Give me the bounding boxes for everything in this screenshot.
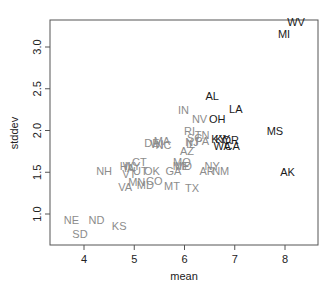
data-point-label: MI bbox=[278, 28, 290, 40]
data-point-label: NV bbox=[192, 113, 208, 125]
scatter-chart: 1.01.52.02.53.0 45678 mean stddev WVMIAL… bbox=[0, 0, 335, 289]
data-point-label: CA bbox=[225, 140, 241, 152]
y-tick-label: 2.0 bbox=[31, 123, 43, 138]
data-point-label: VA bbox=[118, 181, 133, 193]
x-tick-label: 8 bbox=[282, 253, 288, 265]
x-tick-label: 4 bbox=[81, 253, 87, 265]
data-point-label: TX bbox=[185, 182, 200, 194]
data-point-labels: WVMIALLAINNVOHMSRITNSCPAKYKYORWACAILNJAZ… bbox=[64, 16, 306, 240]
x-tick-label: 6 bbox=[181, 253, 187, 265]
data-point-label: AZ bbox=[180, 145, 194, 157]
y-axis: 1.01.52.02.53.0 bbox=[31, 39, 50, 221]
y-tick-label: 2.5 bbox=[31, 81, 43, 96]
y-tick-label: 1.5 bbox=[31, 165, 43, 180]
data-point-label: GA bbox=[165, 165, 182, 177]
data-point-label: ND bbox=[89, 214, 105, 226]
x-tick-label: 7 bbox=[232, 253, 238, 265]
x-tick-label: 5 bbox=[131, 253, 137, 265]
data-point-label: NC bbox=[155, 139, 171, 151]
data-point-label: KS bbox=[112, 220, 127, 232]
y-tick-label: 3.0 bbox=[31, 39, 43, 54]
data-point-label: NE bbox=[64, 214, 79, 226]
data-point-label: MS bbox=[267, 125, 284, 137]
data-point-label: NM bbox=[212, 165, 229, 177]
data-point-label: WV bbox=[287, 16, 305, 28]
x-axis-title: mean bbox=[170, 270, 198, 282]
data-point-label: IN bbox=[178, 104, 189, 116]
data-point-label: MD bbox=[137, 179, 154, 191]
y-axis-title: stddev bbox=[8, 116, 20, 149]
data-point-label: NH bbox=[96, 165, 112, 177]
x-axis: 45678 bbox=[81, 245, 288, 265]
data-point-label: MT bbox=[164, 180, 180, 192]
data-point-label: AL bbox=[205, 90, 218, 102]
y-tick-label: 1.0 bbox=[31, 206, 43, 221]
data-point-label: SD bbox=[72, 228, 87, 240]
data-point-label: OH bbox=[209, 113, 226, 125]
data-point-label: AK bbox=[280, 166, 295, 178]
data-point-label: LA bbox=[229, 103, 243, 115]
